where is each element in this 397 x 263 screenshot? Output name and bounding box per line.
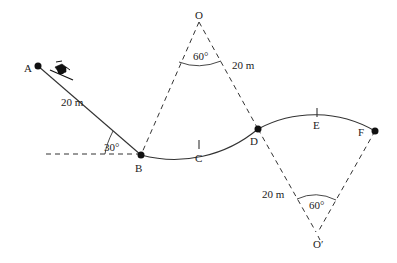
label-d: D <box>250 135 258 147</box>
point-f <box>372 128 379 135</box>
label-a: A <box>24 62 32 74</box>
label-lower-radius: 20 m <box>262 188 285 200</box>
label-b: B <box>135 162 142 174</box>
label-e: E <box>313 119 320 131</box>
radius-ob <box>141 22 199 155</box>
label-o: O <box>195 9 203 21</box>
label-upper-radius: 20 m <box>232 59 255 71</box>
label-upper-angle: 60° <box>193 50 208 62</box>
skier-icon <box>50 61 73 80</box>
radius-od <box>199 22 258 129</box>
ski-track-diagram: A B C D E F O O′ 20 m 30° 60° 20 m 20 m … <box>0 0 397 263</box>
label-incline-angle: 30° <box>104 141 119 153</box>
incline-segment-ab <box>38 66 141 155</box>
label-incline-length: 20 m <box>61 96 84 108</box>
label-lower-angle: 60° <box>309 199 324 211</box>
label-f: F <box>358 126 364 138</box>
point-a <box>35 63 42 70</box>
radius-o-prime-f <box>318 131 375 232</box>
radius-o-prime-d <box>258 129 316 232</box>
point-b <box>138 152 145 159</box>
point-d <box>255 126 262 133</box>
label-o-prime: O′ <box>313 238 323 250</box>
label-c: C <box>195 152 202 164</box>
